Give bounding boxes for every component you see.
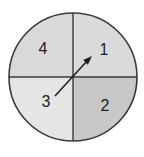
spinner-canvas: 4 1 2 3	[0, 0, 144, 157]
spinner-figure: 4 1 2 3	[0, 0, 144, 157]
section-label-4: 4	[39, 40, 48, 57]
section-label-3: 3	[42, 93, 51, 110]
section-label-2: 2	[101, 97, 110, 114]
section-label-1: 1	[100, 41, 109, 58]
